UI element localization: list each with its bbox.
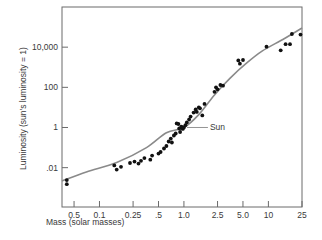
data-point	[299, 33, 303, 37]
y-tick-label: 100	[44, 82, 58, 92]
data-point	[200, 114, 204, 118]
data-point	[203, 102, 207, 106]
x-tick-label: 25	[297, 210, 307, 220]
data-point	[241, 58, 245, 62]
sun-annotation: Sun	[210, 122, 225, 132]
data-point	[279, 48, 283, 52]
data-point	[65, 182, 69, 186]
data-point	[284, 42, 288, 46]
x-tick-label: 2.5	[212, 210, 224, 220]
x-axis-title: Mass (solar masses)	[46, 217, 125, 227]
data-point	[265, 45, 269, 49]
data-point	[236, 59, 240, 63]
data-point	[170, 141, 174, 145]
x-tick-label: .5	[155, 210, 162, 220]
mass-luminosity-chart: 10,0001001.01 0.50.10.25.51.02.55.01025 …	[0, 0, 322, 240]
data-point	[221, 84, 225, 88]
data-point	[198, 106, 202, 110]
data-point	[148, 158, 152, 162]
data-point	[169, 137, 173, 141]
data-point	[165, 144, 169, 148]
data-point	[143, 156, 147, 160]
data-point	[290, 32, 294, 36]
data-point	[178, 130, 182, 134]
data-point	[189, 115, 193, 119]
data-point	[115, 168, 119, 172]
data-point	[133, 160, 137, 164]
y-tick-label: 10,000	[32, 42, 58, 52]
data-point	[195, 110, 199, 114]
data-point	[216, 87, 220, 91]
plot-frame	[62, 7, 302, 207]
data-point	[150, 154, 154, 158]
data-points	[65, 32, 303, 186]
x-tick-label: 10	[264, 210, 274, 220]
data-point	[139, 159, 143, 163]
x-tick-label: 5.0	[237, 210, 249, 220]
x-tick-label: 0.25	[125, 210, 142, 220]
data-point	[119, 165, 123, 169]
data-point	[112, 164, 116, 168]
data-point	[288, 42, 292, 46]
data-point	[177, 122, 181, 126]
y-tick-label: 1	[53, 122, 58, 132]
mass-luminosity-curve	[62, 28, 302, 181]
data-point	[213, 90, 217, 94]
data-point	[238, 62, 242, 66]
data-point	[174, 132, 178, 136]
data-point	[192, 111, 196, 115]
x-tick-label: 1.0	[178, 210, 190, 220]
y-axis-title: Luminosity (sun's luminosity = 1)	[18, 47, 28, 170]
y-tick-label: .01	[46, 163, 58, 173]
data-point	[65, 178, 69, 182]
data-point	[128, 161, 132, 165]
y-axis-ticks: 10,0001001.01	[32, 42, 68, 172]
data-point	[159, 150, 163, 154]
